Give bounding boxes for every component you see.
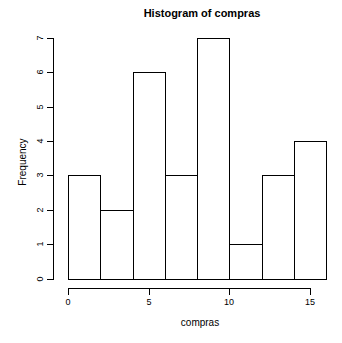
y-tick-label: 1 <box>35 241 45 246</box>
histogram-figure: Histogram of compras compras Frequency 0… <box>0 0 342 343</box>
y-tick-label: 5 <box>35 104 45 109</box>
x-axis-line <box>68 288 311 289</box>
y-axis-tick <box>47 279 53 280</box>
y-axis-tick <box>47 244 53 245</box>
x-axis-tick <box>68 288 69 295</box>
x-axis-tick <box>310 288 311 295</box>
histogram-bar <box>197 38 230 280</box>
y-tick-label: 7 <box>35 35 45 40</box>
histogram-bar <box>165 175 198 280</box>
x-axis-label: compras <box>181 317 219 328</box>
y-tick-label: 2 <box>35 207 45 212</box>
y-axis-tick <box>47 38 53 39</box>
y-axis-tick <box>47 175 53 176</box>
y-axis-line <box>53 38 54 280</box>
chart-title: Histogram of compras <box>144 7 261 19</box>
y-axis-tick <box>47 210 53 211</box>
x-axis-tick <box>149 288 150 295</box>
y-tick-label: 6 <box>35 69 45 74</box>
y-tick-label: 3 <box>35 172 45 177</box>
histogram-bar <box>100 210 134 280</box>
y-axis-tick <box>47 72 53 73</box>
histogram-bar <box>68 175 101 280</box>
histogram-bar <box>262 175 295 280</box>
y-tick-label: 4 <box>35 138 45 143</box>
histogram-bar <box>133 72 166 280</box>
y-axis-label: Frequency <box>17 138 28 185</box>
histogram-bar <box>229 244 263 280</box>
x-tick-label: 5 <box>146 297 151 307</box>
y-tick-label: 0 <box>35 276 45 281</box>
x-tick-label: 10 <box>224 297 234 307</box>
y-axis-tick <box>47 141 53 142</box>
x-tick-label: 15 <box>305 297 315 307</box>
x-axis-tick <box>229 288 230 295</box>
histogram-bar <box>294 141 327 280</box>
x-tick-label: 0 <box>65 297 70 307</box>
y-axis-tick <box>47 107 53 108</box>
